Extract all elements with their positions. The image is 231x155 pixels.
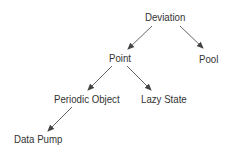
node-point: Point bbox=[109, 52, 131, 64]
node-lazy-state: Lazy State bbox=[141, 93, 187, 105]
edge-point-lazy-state bbox=[127, 66, 151, 90]
edges-layer bbox=[0, 0, 231, 155]
node-data-pump: Data Pump bbox=[14, 133, 62, 145]
node-periodic-object: Periodic Object bbox=[54, 93, 120, 105]
edge-point-periodic-object bbox=[88, 66, 112, 90]
node-deviation: Deviation bbox=[145, 11, 185, 23]
edge-deviation-pool bbox=[180, 26, 203, 48]
tree-diagram: Deviation Point Pool Periodic Object Laz… bbox=[0, 0, 231, 155]
edge-periodic-object-data-pump bbox=[48, 107, 72, 131]
node-pool: Pool bbox=[199, 53, 218, 65]
edge-deviation-point bbox=[128, 26, 152, 49]
